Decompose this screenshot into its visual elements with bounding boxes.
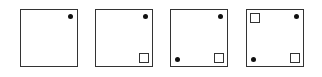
square-icon-top-left <box>250 13 260 23</box>
square-icon-bottom-right <box>214 53 224 63</box>
dot-icon-top-right <box>294 14 299 19</box>
panel-2 <box>95 9 153 67</box>
dot-icon-top-right <box>143 14 148 19</box>
panel-4 <box>246 9 304 67</box>
dot-icon-top-right <box>218 14 223 19</box>
square-icon-bottom-right <box>139 53 149 63</box>
dot-icon-bottom-left <box>175 57 180 62</box>
dot-icon-bottom-left <box>251 57 256 62</box>
panel-1 <box>20 9 78 67</box>
dot-icon-top-right <box>68 14 73 19</box>
square-icon-bottom-right <box>290 53 300 63</box>
panel-3 <box>170 9 228 67</box>
